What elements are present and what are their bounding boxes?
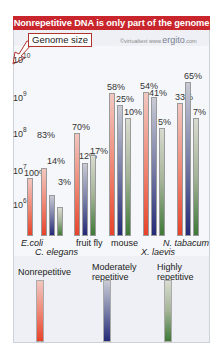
bar [74, 133, 80, 236]
bar [49, 195, 55, 236]
legend-swatch-highly [164, 280, 172, 342]
bar [185, 82, 191, 236]
bar [90, 155, 96, 236]
bar-percent-label: 70% [72, 122, 90, 132]
bar-percent-label: 58% [107, 82, 125, 92]
y-tick-1e8: 108 [13, 127, 27, 139]
bar [82, 163, 88, 236]
legend-swatch-moderately [103, 280, 111, 342]
copyright: ©virtualtext www.ergito.com [120, 35, 197, 45]
bar [125, 118, 131, 236]
bar-percent-label: 83% [37, 130, 55, 140]
x-label-c-elegans: C. elegans [35, 247, 78, 257]
copyright-brand: ergito [162, 35, 185, 45]
legend-swatch-nonrepetitive [36, 280, 44, 342]
bar-percent-label: 14% [47, 156, 65, 166]
bar-percent-label: 25% [116, 94, 134, 104]
bar-percent-label: 10% [124, 107, 142, 117]
y-axis-label: Genome size [28, 33, 92, 47]
bar [27, 178, 33, 236]
copyright-prefix: ©virtualtext www. [120, 38, 162, 44]
legend-label-highly: Highlyrepetitive [157, 262, 194, 282]
x-label-x-laevis: X. laevis [141, 247, 175, 257]
legend-label-moderately: Moderatelyrepetitive [92, 262, 137, 282]
bar-percent-label: 65% [184, 71, 202, 81]
bar-percent-label: 5% [158, 117, 171, 127]
bar [193, 118, 199, 236]
bar-percent-label: 41% [149, 88, 167, 98]
y-tick-1e10: 1010 [13, 53, 30, 65]
bar [41, 168, 47, 236]
bar [109, 93, 115, 236]
x-label-mouse: mouse [111, 238, 138, 248]
bar-percent-label: 3% [58, 177, 71, 187]
x-label-fruit-fly: fruit fly [76, 238, 103, 248]
chart-title: Nonrepetitive DNA is only part of the ge… [13, 16, 210, 30]
copyright-suffix: .com [185, 38, 197, 44]
bar [159, 128, 165, 236]
bar-percent-label: 17% [90, 146, 108, 156]
y-tick-1e6: 106 [13, 198, 27, 210]
bar [177, 103, 183, 236]
bar [143, 92, 149, 236]
legend-label-nonrepetitive: Nonrepetitive [18, 267, 71, 277]
y-tick-1e9: 109 [13, 91, 27, 103]
bar [151, 97, 157, 236]
bar-percent-label: 7% [193, 107, 206, 117]
x-label-n-tabacum: N. tabacum [163, 238, 209, 248]
bar [117, 105, 123, 236]
bar [57, 207, 63, 236]
